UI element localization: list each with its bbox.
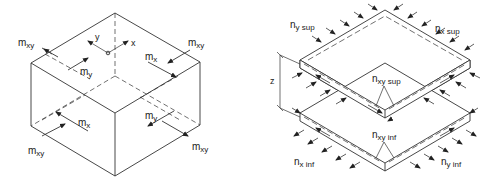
moment-arrows xyxy=(42,48,190,136)
x-axis-label: x xyxy=(131,38,136,48)
cube-hidden-edges xyxy=(31,13,200,126)
cube-top-face xyxy=(31,13,200,113)
label-my-top: my xyxy=(80,66,92,79)
label-mxy-bottom-right: mxy xyxy=(192,141,208,154)
cube-element xyxy=(31,13,200,176)
diagram-canvas: y x mxy my mx mxy mx my mxy mxy xyxy=(0,0,498,185)
y-axis-label: y xyxy=(95,32,100,42)
mxy-arrow-icon xyxy=(42,124,65,136)
mxy-arrow-icon xyxy=(162,121,188,136)
label-mxy-top-left: mxy xyxy=(18,37,34,50)
label-nx-inf: nx inf xyxy=(294,156,315,169)
label-ny-sup: ny sup xyxy=(290,19,315,32)
label-mxy-bottom-left: mxy xyxy=(28,145,44,158)
cube-edge xyxy=(115,125,200,176)
mx-arrow-icon xyxy=(148,62,176,77)
label-ny-inf: ny inf xyxy=(441,156,462,169)
mxy-arrow-icon xyxy=(168,50,190,63)
label-mxy-top-right: mxy xyxy=(188,37,204,50)
label-nx-sup: nx sup xyxy=(435,23,460,36)
axis-origin xyxy=(88,41,128,55)
y-axis-arrow-icon xyxy=(88,41,108,53)
label-mx-bottom: mx xyxy=(78,117,90,130)
z-dimension-label: z xyxy=(270,76,275,86)
z-dimension xyxy=(277,52,300,117)
x-axis-arrow-icon xyxy=(108,41,128,53)
label-mx-top: mx xyxy=(145,51,157,64)
label-my-bottom: my xyxy=(145,110,157,123)
